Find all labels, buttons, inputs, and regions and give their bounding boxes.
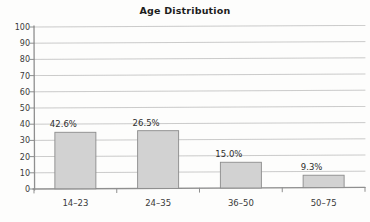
bar-value-label: 42.6% bbox=[50, 119, 77, 129]
bar-value-label: 9.3% bbox=[301, 162, 323, 172]
bar-chart: Age Distribution 1009080706050403020100 … bbox=[0, 0, 370, 222]
bar-value-label: 15.0% bbox=[215, 149, 242, 159]
bar-value-label: 26.5% bbox=[133, 118, 160, 128]
bar-value-labels: 42.6%26.5%15.0%9.3% bbox=[0, 0, 370, 222]
